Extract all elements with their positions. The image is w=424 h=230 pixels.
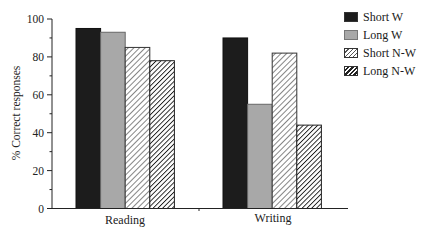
y-tick-label: 0 <box>38 203 44 215</box>
bars <box>76 28 321 208</box>
legend: Short W Long W Short N-W Long N-W <box>344 8 416 80</box>
bar-reading-short-n-w <box>125 47 150 208</box>
legend-label: Long W <box>363 28 402 43</box>
legend-item-long-w: Long W <box>344 26 416 44</box>
legend-item-short-nw: Short N-W <box>344 44 416 62</box>
legend-swatch-light-hatch <box>344 48 358 58</box>
legend-label: Long N-W <box>363 64 415 79</box>
y-tick-label: 100 <box>27 13 45 25</box>
y-axis-label: % Correct responses <box>10 65 23 160</box>
legend-label: Short W <box>363 10 403 25</box>
svg-text:% Correct responses: % Correct responses <box>10 65 23 160</box>
legend-label: Short N-W <box>363 46 416 61</box>
bar-writing-short-w <box>223 38 248 209</box>
bar-writing-short-n-w <box>272 53 297 208</box>
legend-swatch-gray <box>344 30 358 40</box>
legend-swatch-dense-hatch <box>344 66 358 76</box>
y-tick-label: 80 <box>33 51 45 63</box>
bar-reading-long-w <box>101 32 126 208</box>
legend-item-short-w: Short W <box>344 8 416 26</box>
bar-reading-long-n-w <box>150 61 175 209</box>
y-tick-label: 40 <box>33 127 45 139</box>
bar-writing-long-w <box>248 104 273 208</box>
x-axis-labels: Reading Writing <box>105 211 291 227</box>
category-label-writing: Writing <box>255 211 292 225</box>
y-axis-ticks: 020406080100 <box>27 13 52 215</box>
bar-reading-short-w <box>76 28 101 208</box>
category-label-reading: Reading <box>105 213 145 227</box>
y-tick-label: 20 <box>33 165 45 177</box>
legend-item-long-nw: Long N-W <box>344 62 416 80</box>
legend-swatch-dark <box>344 12 358 22</box>
y-tick-label: 60 <box>33 89 45 101</box>
bar-writing-long-n-w <box>297 125 322 208</box>
